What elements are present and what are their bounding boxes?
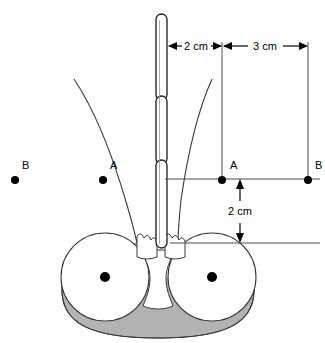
dimension-horizontal-3cm: 3 cm bbox=[223, 40, 308, 52]
dim-2cm-vertical-label: 2 cm bbox=[228, 205, 252, 217]
diagram-svg: 2 cm 3 cm 2 cm B A A bbox=[0, 0, 325, 343]
central-probe-group bbox=[156, 14, 167, 248]
crest-left-scallop bbox=[137, 234, 157, 259]
canal-walls-group bbox=[74, 79, 212, 243]
diagram-canvas: 2 cm 3 cm 2 cm B A A bbox=[0, 0, 325, 343]
dim-2cm-arrowhead-left bbox=[168, 42, 177, 50]
dimension-vertical-2cm: 2 cm bbox=[228, 179, 252, 243]
probe-segment-top bbox=[156, 14, 167, 100]
point-a-right-dot bbox=[218, 176, 226, 184]
crest-right-scallop bbox=[165, 234, 185, 259]
base-body-group bbox=[61, 233, 256, 338]
point-a-right-label: A bbox=[230, 159, 238, 171]
point-b-right-label: B bbox=[315, 159, 322, 171]
point-b-left-label: B bbox=[22, 159, 29, 171]
circle-center-right-dot bbox=[207, 272, 217, 282]
dim-3cm-horizontal-label: 3 cm bbox=[253, 40, 277, 52]
circle-center-left-dot bbox=[100, 272, 110, 282]
canal-wall-left bbox=[74, 79, 137, 243]
dim-v2cm-arrowhead-up bbox=[236, 179, 244, 189]
probe-segment-bottom bbox=[156, 160, 167, 248]
canal-wall-right bbox=[178, 79, 212, 243]
probe-segment-middle bbox=[156, 96, 167, 164]
dim-3cm-arrowhead-left bbox=[223, 42, 232, 50]
point-a-left-dot bbox=[99, 176, 107, 184]
point-b-left-dot bbox=[11, 176, 19, 184]
point-a-left-label: A bbox=[110, 159, 118, 171]
point-b-right-dot bbox=[304, 176, 312, 184]
dimension-horizontal-2cm: 2 cm bbox=[168, 40, 222, 52]
dim-2cm-arrowhead-right bbox=[213, 42, 222, 50]
dim-2cm-horizontal-label: 2 cm bbox=[184, 40, 208, 52]
dim-3cm-arrowhead-right bbox=[299, 42, 308, 50]
